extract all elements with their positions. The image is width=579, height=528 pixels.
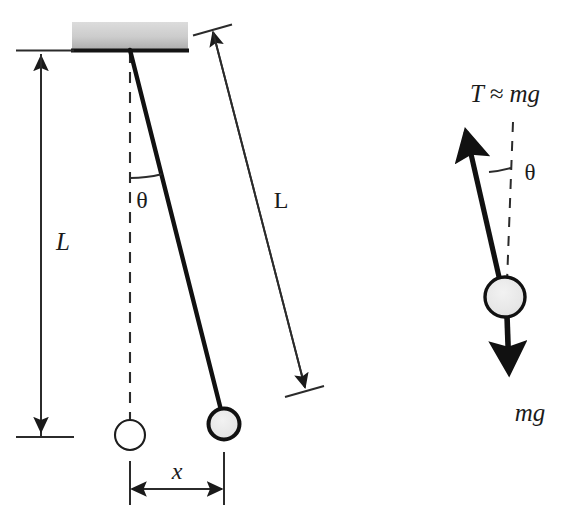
diagonal-length-dimension <box>193 25 324 398</box>
free-body-diagram: θ T ≈ mg mg <box>466 80 545 426</box>
ceiling-support-block <box>71 22 189 51</box>
weight-label: mg <box>515 399 546 426</box>
diagonal-length-label: L <box>274 187 289 213</box>
horizontal-displacement-label: x <box>171 458 183 484</box>
pendulum-bob-displaced <box>209 409 240 440</box>
vertical-length-label: L <box>55 228 70 255</box>
angle-arc <box>130 174 161 178</box>
pendulum-bob-rest <box>115 420 145 450</box>
angle-label-left: θ <box>136 187 148 213</box>
tension-label: T ≈ mg <box>470 80 540 107</box>
free-body-bob <box>485 277 525 317</box>
weight-force-arrow <box>507 316 509 372</box>
pendulum-rod <box>130 50 223 418</box>
figure-canvas: θ L L <box>0 0 579 528</box>
tension-force-arrow <box>466 132 502 290</box>
pendulum-displacement-diagram: θ L L <box>16 22 324 505</box>
vertical-dashed-reference <box>507 122 513 282</box>
pendulum-figure: θ L L <box>0 0 579 528</box>
angle-arc-right <box>489 168 511 172</box>
angle-label-right: θ <box>524 160 535 185</box>
